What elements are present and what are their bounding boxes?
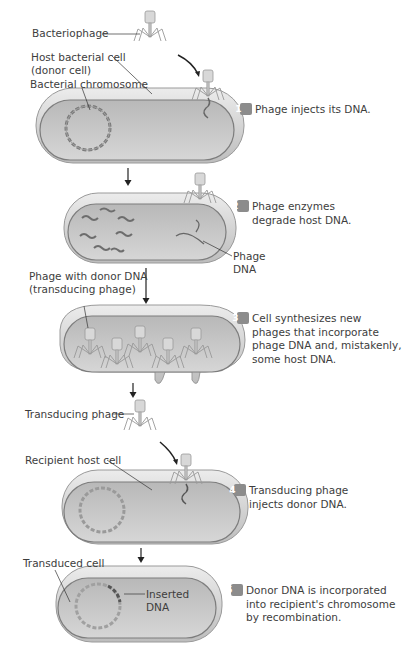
step-3: 3Cell synthesizes new phages that incorp…	[237, 312, 406, 366]
step-4: 4Transducing phage injects donor DNA.	[234, 484, 406, 511]
inserted-dna-label-line2: DNA	[146, 601, 169, 614]
transducing-phage-icon	[124, 400, 156, 430]
transduced-cell	[56, 566, 222, 642]
degrading-cell	[64, 173, 236, 263]
phage-dna-label-line2: DNA	[233, 263, 256, 276]
step-number-badge: 1	[240, 103, 252, 115]
bacteriophage-label: Bacteriophage	[32, 27, 109, 40]
step-5: 5Donor DNA is incorporated into recipien…	[231, 584, 406, 625]
phage-donor-label-line2: (transducing phage)	[29, 283, 136, 296]
step-number-badge: 5	[231, 584, 243, 596]
host-cell-label-line1: Host bacterial cell	[31, 51, 126, 64]
step-2: 2Phage enzymes degrade host DNA.	[237, 200, 406, 227]
step-number-badge: 2	[237, 200, 249, 212]
inserted-dna-label-line1: Inserted	[146, 588, 189, 601]
step-number-badge: 4	[234, 484, 246, 496]
transducing-phage-label: Transducing phage	[25, 408, 124, 421]
step-1: 1Phage injects its DNA.	[240, 103, 406, 117]
step-number-badge: 3	[237, 312, 249, 324]
recipient-host-cell-label: Recipient host cell	[25, 454, 121, 467]
synthesizing-cell	[60, 305, 245, 384]
transduced-cell-label: Transduced cell	[23, 557, 104, 570]
phage-dna-label-line1: Phage	[233, 250, 266, 263]
recipient-cell	[62, 454, 248, 544]
bacteriophage-icon	[134, 11, 166, 41]
bacterial-chromosome-label: Bacterial chromosome	[30, 78, 148, 91]
host-cell-label-line2: (donor cell)	[31, 64, 91, 77]
phage-donor-label-line1: Phage with donor DNA	[29, 270, 147, 283]
